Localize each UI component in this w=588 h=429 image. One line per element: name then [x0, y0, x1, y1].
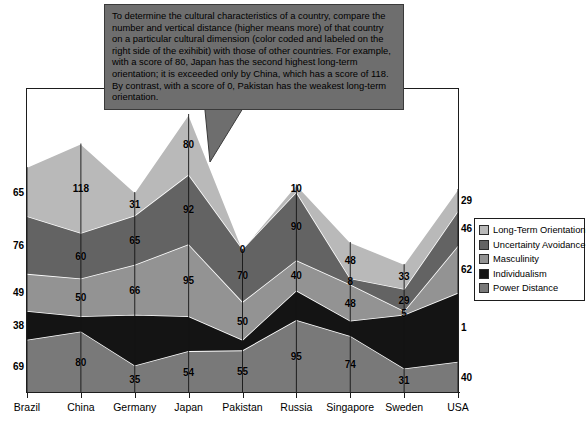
data-value-label: 66 [129, 284, 140, 295]
x-axis-label: China [67, 401, 94, 413]
data-value-label: 118 [73, 183, 89, 194]
data-value-label: 38 [13, 320, 24, 331]
data-value-label: 0 [240, 243, 246, 254]
x-tick [81, 393, 82, 398]
legend-swatch-icon [479, 254, 489, 264]
data-value-label: 49 [13, 287, 24, 298]
data-value-label: 46 [461, 223, 472, 234]
data-value-label: 10 [291, 183, 302, 194]
legend-label: Individualism [493, 269, 547, 279]
data-value-label: 69 [13, 360, 24, 371]
data-value-label: 40 [461, 371, 472, 382]
legend-label: Long-Term Orientation [493, 225, 586, 235]
data-value-label: 1 [461, 322, 467, 333]
data-value-label: 8 [347, 276, 353, 287]
x-tick [27, 393, 28, 398]
legend-swatch-icon [479, 225, 489, 235]
data-value-label: 80 [75, 356, 86, 367]
data-value-label: 92 [183, 204, 194, 215]
x-axis-label: Japan [174, 401, 203, 413]
data-value-label: 40 [291, 270, 302, 281]
x-tick [135, 393, 136, 398]
legend-label: Uncertainty Avoidance [493, 240, 585, 250]
chart-legend: Long-Term Orientation Uncertainty Avoida… [474, 218, 585, 301]
data-value-label: 62 [461, 264, 472, 275]
data-value-label: 76 [13, 240, 24, 251]
x-axis-label: Russia [280, 401, 312, 413]
x-tick [189, 393, 190, 398]
legend-label: Power Distance [493, 283, 558, 293]
data-value-label: 48 [345, 255, 356, 266]
legend-label: Masculinity [493, 254, 539, 264]
x-axis-label: Singapore [326, 401, 374, 413]
x-axis-label: Pakistan [222, 401, 262, 413]
x-tick [296, 393, 297, 398]
data-value-label: 31 [399, 375, 410, 386]
data-value-label: 29 [399, 294, 410, 305]
x-tick [404, 393, 405, 398]
legend-swatch-icon [479, 283, 489, 293]
data-value-label: 55 [237, 366, 248, 377]
data-value-label: 74 [345, 358, 356, 369]
data-value-label: 5 [401, 307, 407, 318]
x-axis-label: USA [447, 401, 469, 413]
x-tick [458, 393, 459, 398]
data-value-label: 90 [291, 221, 302, 232]
legend-swatch-icon [479, 240, 489, 250]
legend-swatch-icon [479, 269, 489, 279]
data-value-label: 65 [13, 186, 24, 197]
x-axis-label: Sweden [385, 401, 423, 413]
data-value-label: 35 [129, 373, 140, 384]
x-tick [243, 393, 244, 398]
data-value-label: 70 [237, 270, 248, 281]
legend-item-1[interactable]: Uncertainty Avoidance [479, 238, 581, 253]
data-value-label: 48 [345, 297, 356, 308]
legend-item-3[interactable]: Individualism [479, 267, 581, 282]
data-value-label: 60 [75, 250, 86, 261]
data-value-label: 95 [291, 351, 302, 362]
data-value-label: 33 [399, 271, 410, 282]
data-value-label: 54 [183, 366, 194, 377]
legend-item-2[interactable]: Masculinity [479, 252, 581, 267]
data-value-label: 29 [461, 194, 472, 205]
data-value-label: 65 [129, 235, 140, 246]
x-tick [350, 393, 351, 398]
data-value-label: 31 [129, 198, 140, 209]
data-value-label: 95 [183, 275, 194, 286]
x-axis-label: Germany [113, 401, 156, 413]
legend-item-4[interactable]: Power Distance [479, 281, 581, 296]
callout-text: To determine the cultural characteristic… [112, 10, 396, 103]
data-value-label: 50 [237, 315, 248, 326]
annotation-callout: To determine the cultural characteristic… [104, 4, 404, 110]
data-value-label: 80 [183, 139, 194, 150]
data-value-label: 50 [75, 292, 86, 303]
x-axis-label: Brazil [14, 401, 40, 413]
legend-item-0[interactable]: Long-Term Orientation [479, 223, 581, 238]
